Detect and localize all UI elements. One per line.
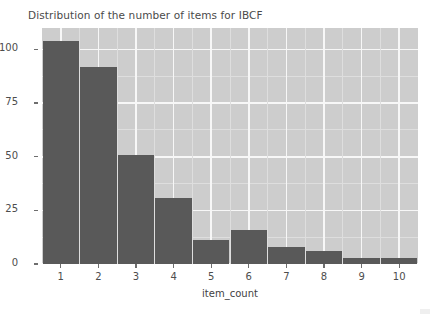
y-tick-label: 0 xyxy=(12,257,18,268)
x-tick-mark xyxy=(173,264,174,268)
x-tick-label: 2 xyxy=(95,271,101,282)
bar xyxy=(155,198,191,265)
y-tick-mark xyxy=(34,49,38,50)
x-tick-mark xyxy=(135,264,136,268)
bar xyxy=(193,240,229,264)
bar xyxy=(118,155,154,264)
x-tick-mark xyxy=(361,264,362,268)
y-tick-label: 25 xyxy=(5,203,18,214)
x-tick-mark xyxy=(399,264,400,268)
bar-series xyxy=(42,28,418,264)
y-tick-label: 50 xyxy=(5,150,18,161)
x-tick-label: 6 xyxy=(246,271,252,282)
x-tick-mark xyxy=(98,264,99,268)
x-tick-label: 3 xyxy=(133,271,139,282)
y-tick-label: 100 xyxy=(0,42,18,53)
y-axis: 0255075100 xyxy=(0,28,30,264)
x-axis-title: item_count xyxy=(42,288,418,299)
y-tick-mark xyxy=(34,102,38,103)
bar xyxy=(268,247,304,264)
x-tick-label: 9 xyxy=(358,271,364,282)
x-tick-mark xyxy=(211,264,212,268)
y-tick-mark xyxy=(34,210,38,211)
bar xyxy=(80,67,116,264)
x-tick-label: 8 xyxy=(321,271,327,282)
x-tick-label: 1 xyxy=(58,271,64,282)
x-tick-label: 4 xyxy=(170,271,176,282)
bar xyxy=(231,230,267,264)
bar xyxy=(43,41,79,264)
plot-panel xyxy=(42,28,418,264)
y-tick-label: 75 xyxy=(5,96,18,107)
x-tick-label: 5 xyxy=(208,271,214,282)
y-tick-mark xyxy=(34,263,38,264)
x-tick-mark xyxy=(248,264,249,268)
x-tick-mark xyxy=(60,264,61,268)
corner-artifact xyxy=(420,309,430,314)
y-tick-mark xyxy=(34,156,38,157)
x-tick-mark xyxy=(286,264,287,268)
bar xyxy=(306,251,342,264)
x-tick-label: 10 xyxy=(393,271,406,282)
x-tick-label: 7 xyxy=(283,271,289,282)
x-axis: 12345678910 xyxy=(42,264,418,290)
chart-title: Distribution of the number of items for … xyxy=(28,9,263,21)
chart-figure: Distribution of the number of items for … xyxy=(0,0,436,318)
x-tick-mark xyxy=(323,264,324,268)
